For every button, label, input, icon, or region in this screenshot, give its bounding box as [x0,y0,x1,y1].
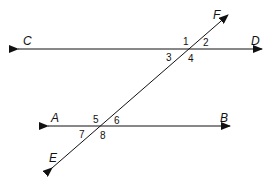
angle-4: 4 [188,53,194,64]
label-c: C [23,34,32,48]
label-d: D [251,34,260,48]
angle-2: 2 [203,37,209,48]
angle-5: 5 [93,114,99,125]
label-e: E [49,151,58,165]
angle-6: 6 [114,115,120,126]
transversal-ef [52,15,228,168]
angle-1: 1 [183,36,189,47]
diagram-canvas: C D F A B E 1 2 3 4 5 6 7 8 [0,0,277,182]
angle-3: 3 [166,52,172,63]
label-b: B [220,111,228,125]
angle-8: 8 [100,130,106,141]
angle-7: 7 [79,129,85,140]
label-f: F [213,8,221,22]
label-a: A [50,111,59,125]
